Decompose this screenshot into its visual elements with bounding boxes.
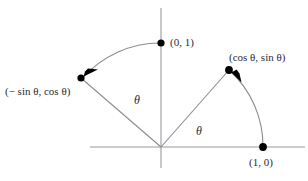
label-angle-theta-right: θ <box>196 125 202 137</box>
point-neg-sin-cos <box>77 74 84 81</box>
unit-circle-diagram: (0, 1) (1, 0) (cos θ, sin θ) (− sin θ, c… <box>0 0 308 181</box>
label-point-neg-sin-cos: (− sin θ, cos θ) <box>5 86 70 97</box>
point-cos-sin <box>225 66 233 74</box>
label-angle-theta-left: θ <box>134 94 140 106</box>
point-0-1 <box>157 39 164 46</box>
arrowhead-left-icon <box>84 69 99 77</box>
arrowhead-right-icon <box>232 70 242 83</box>
point-1-0 <box>259 143 267 151</box>
arc-left <box>82 43 161 79</box>
arc-right <box>230 71 264 148</box>
label-point-0-1: (0, 1) <box>170 37 194 48</box>
label-point-1-0: (1, 0) <box>249 157 273 168</box>
ray-to-neg-sin-cos <box>81 78 161 147</box>
ray-to-cos-sin <box>161 70 229 147</box>
label-point-cos-sin: (cos θ, sin θ) <box>229 52 285 63</box>
